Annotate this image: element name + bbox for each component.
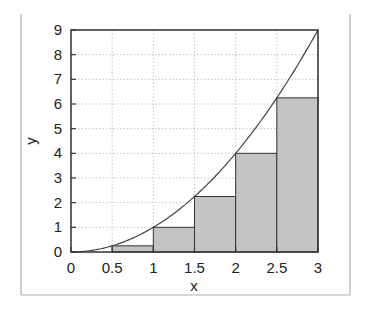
x-tick-label: 2.5 [266, 259, 287, 276]
x-axis-label: x [190, 277, 198, 294]
y-tick-label: 5 [54, 120, 62, 137]
x-tick-label: 0.5 [102, 259, 123, 276]
riemann-sum-chart: 0123456789 00.511.522.53 x y [0, 0, 367, 313]
y-tick-label: 3 [54, 169, 62, 186]
x-tick-label: 1 [149, 259, 157, 276]
y-tick-label: 9 [54, 21, 62, 38]
y-tick-label: 4 [54, 144, 62, 161]
x-tick-label: 0 [67, 259, 75, 276]
y-tick-label: 1 [54, 218, 62, 235]
x-tick-label: 2 [231, 259, 239, 276]
x-tick-label: 3 [314, 259, 322, 276]
riemann-bar [153, 227, 194, 252]
y-tick-label: 7 [54, 70, 62, 87]
x-tick-label: 1.5 [184, 259, 205, 276]
y-axis-label: y [22, 137, 39, 145]
y-tick-label: 0 [54, 243, 62, 260]
riemann-bars [112, 98, 318, 252]
y-tick-label: 2 [54, 194, 62, 211]
y-axis-ticks: 0123456789 [54, 21, 76, 260]
riemann-bar [112, 246, 153, 252]
riemann-bar [236, 153, 277, 252]
y-tick-label: 6 [54, 95, 62, 112]
riemann-bar [277, 98, 318, 252]
y-tick-label: 8 [54, 46, 62, 63]
riemann-bar [195, 197, 236, 253]
